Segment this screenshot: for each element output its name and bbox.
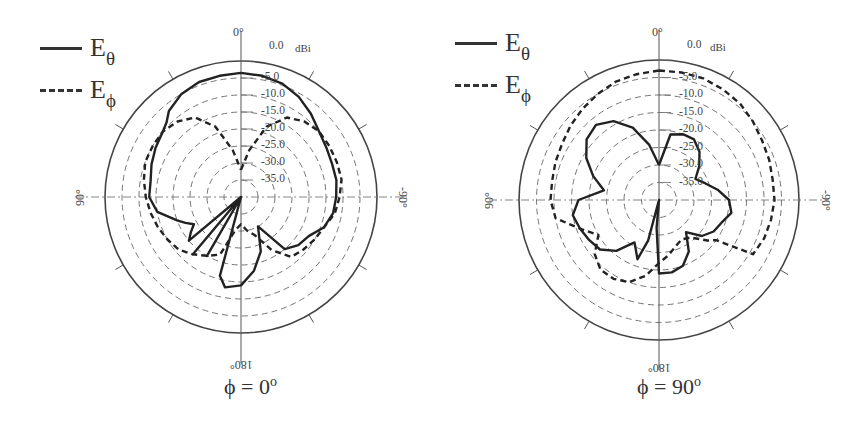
angle-label-bottom: 180°: [230, 357, 253, 372]
ring-label: -15.0: [679, 105, 703, 117]
ring-label: -20.0: [679, 122, 703, 134]
unit-label: dBi: [295, 42, 311, 54]
angle-label-top: 0°: [233, 25, 244, 40]
solid-line-swatch: [40, 47, 82, 50]
ring-label: -30.0: [261, 155, 285, 167]
polar-plot-phi-0: [0, 0, 433, 423]
ring-label: -35.0: [261, 172, 285, 184]
panel-phi-90: Eθ Eϕ 0° 90° -90° 180° dBi ϕ = 90o 0.0-5…: [433, 0, 866, 423]
ring-label: -5.0: [679, 70, 697, 82]
e-phi-trace: [551, 71, 775, 283]
ring-label: -20.0: [261, 121, 285, 133]
angle-label-right: -90°: [395, 187, 410, 208]
ring-label: -15.0: [261, 104, 285, 116]
ring-label: -5.0: [261, 70, 279, 82]
ring-label: -25.0: [261, 138, 285, 150]
angle-label-bottom: 180°: [648, 360, 671, 375]
ring-label: -35.0: [679, 175, 703, 187]
dashed-line-swatch: [40, 89, 82, 92]
ring-label: -25.0: [679, 140, 703, 152]
panel-phi-0: Eθ Eϕ 0° 90° -90° 180° dBi ϕ = 0o 0.0-5.…: [0, 0, 433, 423]
angle-label-right: -90°: [818, 190, 833, 211]
solid-line-swatch: [455, 42, 497, 45]
panel-caption: ϕ = 0o: [224, 374, 277, 400]
ring-label: 0.0: [687, 38, 701, 50]
unit-label: dBi: [710, 41, 726, 53]
angle-label-left: 90°: [73, 189, 88, 206]
angle-label-left: 90°: [482, 192, 497, 209]
dashed-line-swatch: [455, 84, 497, 87]
ring-label: -30.0: [679, 157, 703, 169]
ring-label: -10.0: [261, 87, 285, 99]
e-theta-trace: [573, 121, 732, 273]
panel-caption: ϕ = 90o: [637, 374, 701, 400]
ring-label: 0.0: [269, 39, 283, 51]
angle-label-top: 0°: [652, 25, 663, 40]
ring-label: -10.0: [679, 87, 703, 99]
